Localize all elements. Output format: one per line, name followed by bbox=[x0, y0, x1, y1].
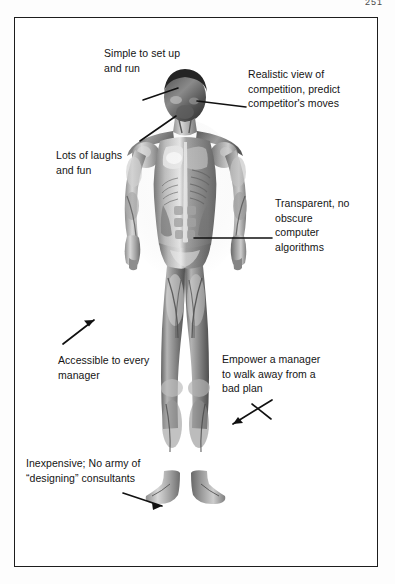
callout-inexpensive-no-army: Inexpensive; No army of “designing” cons… bbox=[26, 456, 192, 485]
callout-accessible-to-every-manager: Accessible to every manager bbox=[58, 353, 178, 382]
callout-transparent-no-obscure-algorithms: Transparent, no obscure computer algorit… bbox=[275, 196, 375, 254]
callout-lots-of-laughs: Lots of laughs and fun bbox=[56, 148, 166, 177]
callout-simple-to-set-up: Simple to set up and run bbox=[104, 46, 222, 75]
anatomical-figure bbox=[125, 69, 247, 504]
callout-realistic-view: Realistic view of competition, predict c… bbox=[248, 67, 374, 111]
scanned-page: 251 bbox=[0, 0, 395, 584]
arrow-accessible bbox=[63, 320, 94, 344]
callout-empower-a-manager: Empower a manager to walk away from a ba… bbox=[222, 352, 354, 396]
